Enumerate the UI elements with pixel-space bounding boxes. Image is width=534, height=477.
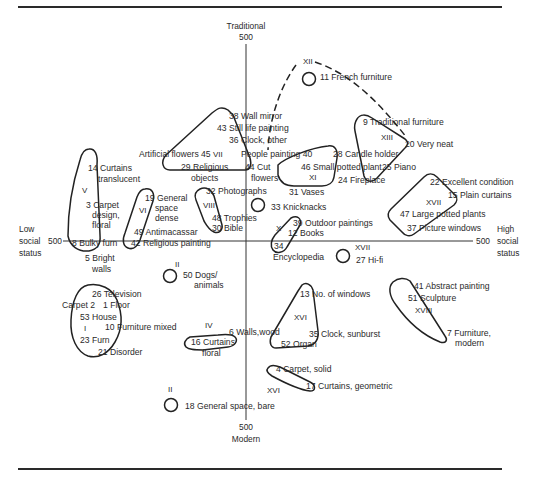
item-label-i27: 27 Hi-fi: [356, 255, 383, 265]
item-label-i3a: 3 Carpet: [86, 200, 120, 210]
cluster-label-xvii: XVII: [426, 198, 441, 207]
item-label-i19a: 19 General: [145, 193, 188, 203]
item-label-i53: 53 House: [80, 312, 117, 322]
item-label-i7a: 7 Furniture,: [447, 328, 491, 338]
axis-right-label-1: High: [497, 224, 515, 234]
item-label-i51: 51 Sculpture: [408, 293, 456, 303]
cluster-label-xi: XI: [309, 173, 317, 182]
item-label-i39: 39 Outdoor paintings: [293, 218, 373, 228]
axis-top-value: 500: [239, 32, 253, 42]
item-label-i20: 20 Very neat: [405, 139, 454, 149]
item-label-i49: 49 Antimacassar: [134, 227, 198, 237]
item-label-i3b: design,: [92, 210, 120, 220]
item-label-i29b: objects: [191, 173, 218, 183]
circle-50: [164, 270, 177, 283]
item-label-i5b: walls: [91, 264, 111, 274]
axis-right-label-2: social: [497, 236, 519, 246]
item-label-i32: 32 Photographs: [206, 186, 267, 196]
item-label-i50b: animals: [194, 280, 224, 290]
item-label-i10: 10 Furniture mixed: [105, 322, 177, 332]
cluster-label-xiii: XIII: [381, 133, 393, 142]
axis-left-value: 500: [48, 236, 62, 246]
item-label-i31: 31 Vases: [289, 187, 324, 197]
item-label-i5a: 5 Bright: [85, 253, 115, 263]
cluster-label-viii: VIII: [203, 201, 215, 210]
cluster-label-i: I: [84, 324, 86, 333]
item-label-i2: Carpet 2: [62, 300, 95, 310]
axis-top-label: Traditional: [227, 21, 266, 31]
circle-18: [165, 399, 178, 412]
item-label-i21: 21 Disorder: [98, 347, 143, 357]
item-label-i45: Artificial flowers 45: [139, 149, 211, 159]
cluster-label-v: V: [82, 186, 88, 195]
cluster-label-iv: IV: [205, 321, 213, 330]
circle-27: [337, 250, 350, 263]
item-label-i35: 35 Clock, sunburst: [309, 329, 381, 339]
item-label-i42: 42 Religious painting: [131, 238, 211, 248]
item-label-i14b: translucent: [98, 174, 141, 184]
item-label-i23: 23 Furn: [80, 335, 110, 345]
item-label-i3c: floral: [92, 220, 111, 230]
item-label-i6: 6 Walls,wood: [229, 327, 280, 337]
cluster-label-vi: VI: [139, 206, 147, 215]
item-label-i48: 48 Trophies: [212, 213, 257, 223]
item-label-i12: 12 Books: [288, 228, 324, 238]
cluster-label-x: X: [276, 224, 282, 233]
item-label-i19b: space: [155, 203, 178, 213]
item-label-i46: 46 Small potted plant: [301, 162, 382, 172]
cluster-label-xvi: XVI: [294, 313, 307, 322]
item-label-i28: 28 Candle holder: [333, 149, 399, 159]
item-label-i34: 34: [274, 241, 284, 251]
cluster-label-vii: VII: [213, 150, 223, 159]
item-label-i22: 22 Excellent condition: [430, 177, 514, 187]
item-label-i36: 36 Clock, other: [229, 135, 287, 145]
item-label-i13: 13 No. of windows: [300, 289, 370, 299]
circle-11: [303, 73, 316, 86]
item-label-i34b: Encyclopedia: [273, 252, 324, 262]
item-label-i41: 41 Abstract painting: [414, 281, 490, 291]
item-label-i16b: floral: [202, 348, 221, 358]
item-label-i25: 25 Piano: [382, 162, 416, 172]
item-label-i44b: flowers: [251, 173, 278, 183]
cluster-label-xviii: XVIII: [415, 306, 432, 315]
axis-right-label-3: status: [497, 248, 519, 258]
cluster-labels: XIIVIIXIIIXIVVIVIIIXVIIXXVIIIIIXVIIIXVII…: [82, 57, 441, 395]
item-label-i29a: 29 Religious: [181, 162, 228, 172]
item-label-i37: 37 Picture windows: [407, 223, 481, 233]
cluster-label-xvi: XVI: [267, 386, 280, 395]
item-label-i52: 52 Organ: [281, 339, 317, 349]
cluster-label-ii: II: [168, 385, 172, 394]
item-label-i1: 1 Floor: [103, 300, 130, 310]
item-label-i14a: 14 Curtains: [88, 163, 132, 173]
item-label-i15: 15 Plain curtains: [448, 190, 512, 200]
item-label-i7b: modern: [455, 338, 484, 348]
item-label-i43: 43 Still life painting: [217, 123, 289, 133]
item-label-i8: 8 Bulky furn: [72, 238, 118, 248]
item-label-i47: 47 Large potted plants: [400, 209, 486, 219]
item-label-i30: 30 Bible: [212, 223, 243, 233]
item-label-i33: 33 Knicknacks: [271, 202, 326, 212]
item-label-i11: 11 French furniture: [320, 72, 392, 82]
axis-bottom-label: Modern: [232, 434, 261, 444]
item-label-i44a: 44 Cut: [245, 162, 271, 172]
item-label-i19c: dense: [155, 213, 179, 223]
axis-left-label-3: status: [19, 248, 41, 258]
item-label-i9: 9 Traditional furniture: [363, 117, 444, 127]
axis-right-value: 500: [476, 236, 490, 246]
axis-left-label-2: social: [19, 236, 41, 246]
item-label-i38: 38 Wall mirror: [229, 111, 282, 121]
cluster-label-xvii: XVII: [355, 243, 370, 252]
item-label-i18: 18 General space, bare: [185, 401, 275, 411]
axis-left-label-1: Low: [19, 224, 35, 234]
correspondence-analysis-diagram: Traditional 500 500 Modern Low social st…: [0, 0, 534, 477]
axis-bottom-value: 500: [239, 422, 253, 432]
item-label-i24: 24 Fireplace: [338, 175, 386, 185]
item-label-i16a: 16 Curtains: [191, 337, 235, 347]
circle-33: [252, 199, 265, 212]
item-label-i50a: 50 Dogs/: [183, 270, 218, 280]
item-label-i40: People painting 40: [241, 149, 312, 159]
cluster-label-xii: XII: [303, 57, 313, 66]
cluster-label-ii: II: [175, 260, 179, 269]
item-label-i26: 26 Television: [92, 289, 142, 299]
item-label-i17: 17 Curtains, geometric: [306, 381, 393, 391]
